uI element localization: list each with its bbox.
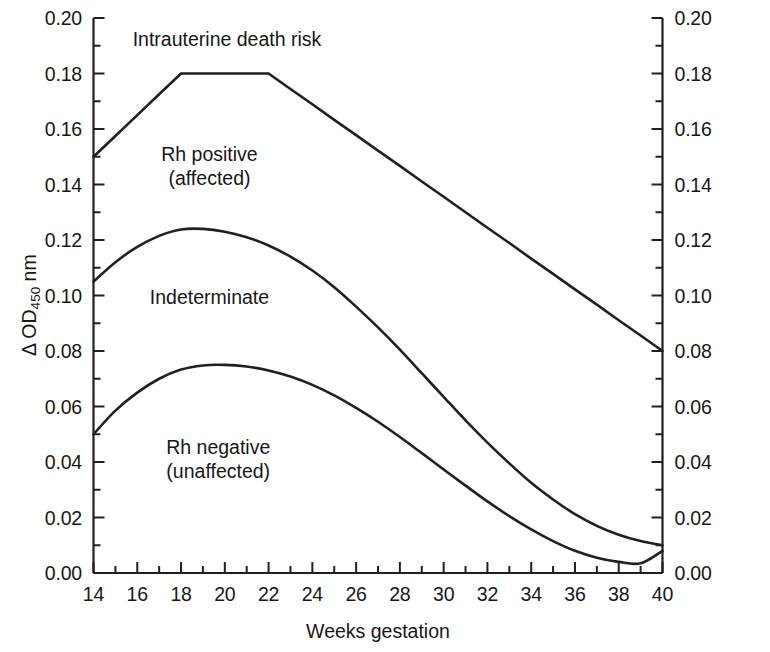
x-axis-tick-label: 18 [170, 583, 191, 606]
x-axis-tick-label: 16 [127, 583, 148, 606]
x-axis-tick-label: 28 [389, 583, 410, 606]
y-axis-title-main: OD [18, 309, 40, 344]
x-axis-tick-label: 26 [345, 583, 366, 606]
plot-canvas [0, 0, 770, 652]
curve-upper-boundary [94, 74, 663, 352]
annotation-line: (affected) [161, 166, 257, 190]
y-axis-left-tick-label: 0.00 [10, 562, 82, 585]
x-axis-tick-label: 20 [214, 583, 235, 606]
x-axis-tick-label: 14 [83, 583, 104, 606]
y-axis-right-tick-label: 0.06 [675, 395, 712, 418]
y-axis-left-tick-label: 0.20 [10, 7, 82, 30]
liley-chart-figure: 0.000.020.040.060.080.100.120.140.160.18… [0, 0, 770, 652]
y-axis-left-tick-label: 0.18 [10, 62, 82, 85]
annotation-intrauterine-death-risk: Intrauterine death risk [133, 27, 322, 51]
x-axis-tick-label: 22 [258, 583, 279, 606]
y-axis-left-tick-label: 0.04 [10, 451, 82, 474]
y-axis-title: Δ OD450 nm [18, 254, 43, 356]
annotation-indeterminate: Indeterminate [150, 285, 269, 309]
x-axis-tick-label: 30 [433, 583, 454, 606]
x-axis-tick-label: 40 [652, 583, 673, 606]
y-axis-left-tick-label: 0.14 [10, 173, 82, 196]
annotation-line: Rh positive [161, 142, 257, 166]
y-axis-title-delta: Δ [18, 344, 40, 356]
y-axis-right-tick-label: 0.02 [675, 506, 712, 529]
annotation-line: Intrauterine death risk [133, 27, 322, 51]
y-axis-right-tick-label: 0.12 [675, 229, 712, 252]
x-axis-tick-label: 34 [521, 583, 542, 606]
annotation-rh-negative-unaffected: Rh negative(unaffected) [166, 435, 270, 483]
annotation-line: Indeterminate [150, 285, 269, 309]
y-axis-right-tick-label: 0.14 [675, 173, 712, 196]
x-axis-tick-label: 36 [564, 583, 585, 606]
y-axis-right-tick-label: 0.20 [675, 7, 712, 30]
y-axis-left-tick-label: 0.02 [10, 506, 82, 529]
y-axis-right-tick-label: 0.10 [675, 284, 712, 307]
y-axis-left-tick-label: 0.12 [10, 229, 82, 252]
x-axis-tick-label: 38 [608, 583, 629, 606]
y-axis-left-tick-label: 0.06 [10, 395, 82, 418]
x-axis-tick-label: 32 [477, 583, 498, 606]
annotation-line: (unaffected) [166, 459, 270, 483]
curve-middle-boundary [94, 229, 663, 546]
x-axis-tick-label: 24 [302, 583, 323, 606]
y-axis-right-tick-label: 0.18 [675, 62, 712, 85]
x-axis-title: Weeks gestation [306, 620, 450, 643]
annotation-rh-positive-affected: Rh positive(affected) [161, 142, 257, 190]
y-axis-title-unit: nm [18, 254, 40, 287]
y-axis-right-tick-label: 0.16 [675, 118, 712, 141]
y-axis-right-tick-label: 0.08 [675, 340, 712, 363]
y-axis-right-tick-label: 0.00 [675, 562, 712, 585]
y-axis-left-tick-label: 0.16 [10, 118, 82, 141]
y-axis-title-subscript: 450 [28, 286, 43, 309]
y-axis-right-tick-label: 0.04 [675, 451, 712, 474]
annotation-line: Rh negative [166, 435, 270, 459]
